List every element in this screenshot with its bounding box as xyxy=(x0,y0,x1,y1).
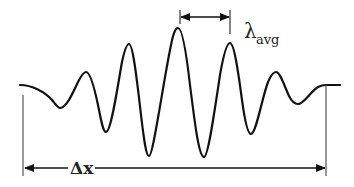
wavelength-subscript: avg xyxy=(256,32,279,47)
extent-label: Δx xyxy=(70,158,94,178)
wave-curve xyxy=(20,28,340,157)
wave-packet-diagram: λ avg Δx xyxy=(0,0,354,187)
